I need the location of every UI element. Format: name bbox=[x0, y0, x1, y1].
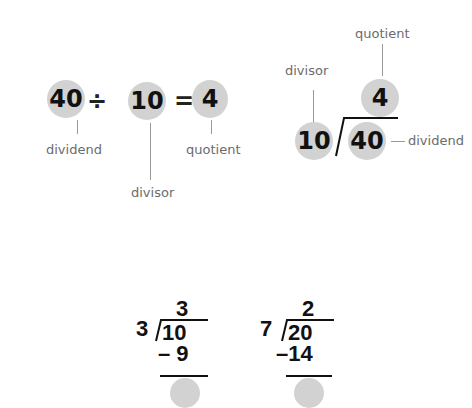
divisor-label: divisor bbox=[131, 185, 174, 200]
example-2-subtract: –14 bbox=[276, 343, 313, 365]
quotient-leader-line bbox=[211, 120, 212, 134]
dividend-value: 40 bbox=[49, 87, 82, 111]
dividend-circle-right: 40 bbox=[348, 122, 386, 160]
example-2-remainder-circle bbox=[294, 378, 324, 408]
quotient-circle-right: 4 bbox=[361, 79, 399, 117]
quotient-label: quotient bbox=[186, 142, 241, 157]
quotient-value: 4 bbox=[202, 87, 219, 111]
example-2-quotient: 2 bbox=[302, 298, 314, 320]
equals-sign: = bbox=[174, 89, 194, 113]
example-2-divisor: 7 bbox=[260, 318, 272, 340]
quotient-label-right: quotient bbox=[355, 26, 410, 41]
divisor-label-right: divisor bbox=[285, 63, 328, 78]
quotient-circle: 4 bbox=[192, 80, 228, 118]
quotient-leader-line-right bbox=[382, 44, 383, 76]
divisor-leader-line-right bbox=[313, 90, 314, 123]
example-1-divisor: 3 bbox=[136, 318, 148, 340]
dividend-circle: 40 bbox=[47, 80, 85, 118]
dividend-label-right: dividend bbox=[408, 133, 464, 148]
example-1-underline bbox=[160, 375, 208, 377]
divide-sign: ÷ bbox=[87, 89, 107, 113]
divisor-leader-line bbox=[150, 123, 151, 180]
example-1-remainder-circle bbox=[170, 378, 200, 408]
divisor-value-right: 10 bbox=[297, 129, 330, 153]
divisor-value: 10 bbox=[130, 89, 163, 113]
dividend-value-right: 40 bbox=[350, 129, 383, 153]
divisor-circle: 10 bbox=[128, 82, 166, 120]
dividend-label: dividend bbox=[46, 142, 102, 157]
example-2-underline bbox=[286, 375, 332, 377]
divisor-circle-right: 10 bbox=[295, 122, 333, 160]
example-1-quotient: 3 bbox=[176, 298, 188, 320]
example-1-subtract: – 9 bbox=[158, 343, 189, 365]
dividend-leader-line bbox=[77, 120, 78, 134]
quotient-value-right: 4 bbox=[372, 86, 389, 110]
dividend-leader-line-right bbox=[391, 141, 405, 142]
